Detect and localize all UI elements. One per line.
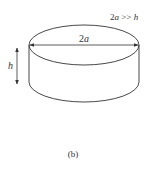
cylinder-diagram: 2a h 2a >> h (b) — [0, 0, 147, 170]
figure-caption: (b) — [68, 149, 79, 159]
height-label: h — [8, 60, 13, 71]
cylinder-bottom-arc — [29, 82, 139, 102]
diameter-label: 2a — [79, 33, 89, 44]
condition-label: 2a >> h — [110, 12, 139, 22]
